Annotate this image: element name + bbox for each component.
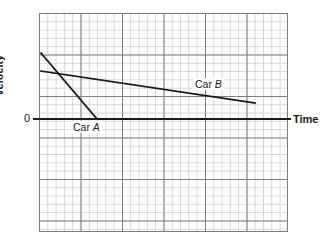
- series-label-car-b-prefix: Car: [195, 78, 215, 90]
- series-label-car-a-prefix: Car: [73, 121, 93, 133]
- series-line-car-a: [41, 53, 97, 119]
- x-axis-label: Time: [293, 114, 318, 125]
- y-axis-label: Velocity: [0, 55, 5, 96]
- zero-tick-label: 0: [24, 113, 30, 124]
- series-label-car-b: Car B: [193, 78, 224, 90]
- series-label-car-b-letter: B: [215, 78, 222, 90]
- velocity-time-graph: Velocity 0 Time Car A Car B: [0, 0, 322, 241]
- series-label-car-a-letter: A: [93, 121, 100, 133]
- series-label-car-a: Car A: [71, 121, 102, 133]
- chart-vector-layer: [0, 0, 322, 241]
